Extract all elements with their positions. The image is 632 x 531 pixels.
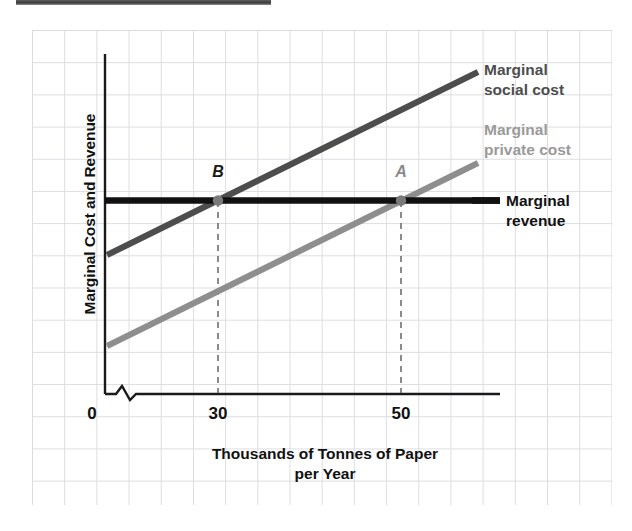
legend-marginal-private-cost: Marginal private cost xyxy=(484,120,571,160)
point-marker-a xyxy=(396,195,406,205)
marginal-social-cost-line xyxy=(107,72,478,255)
legend-marginal-social-cost: Marginal social cost xyxy=(484,60,564,100)
legend-marginal-private-cost-line-2: private cost xyxy=(484,140,571,160)
y-axis-title: Marginal Cost and Revenue xyxy=(81,64,99,364)
point-marker-b xyxy=(213,195,223,205)
legend-marginal-private-cost-line-1: Marginal xyxy=(484,120,571,140)
x-tick-label-50: 50 xyxy=(378,404,424,424)
x-axis-title: Thousands of Tonnes of Paper per Year xyxy=(150,444,500,484)
x-axis-title-line-1: Thousands of Tonnes of Paper xyxy=(150,444,500,464)
legend-marginal-revenue-line-1: Marginal xyxy=(506,191,570,211)
legend-marginal-social-cost-line-2: social cost xyxy=(484,80,564,100)
x-tick-label-30: 30 xyxy=(195,404,241,424)
legend-marginal-social-cost-line-1: Marginal xyxy=(484,60,564,80)
legend-marginal-revenue: Marginal revenue xyxy=(506,191,570,231)
legend-marginal-revenue-line-2: revenue xyxy=(506,211,570,231)
origin-tick-label: 0 xyxy=(75,404,109,424)
figure-canvas: Marginal Cost and Revenue Thousands of T… xyxy=(0,0,632,531)
x-axis-line xyxy=(105,386,500,400)
x-axis-title-line-2: per Year xyxy=(150,464,500,484)
marginal-private-cost-line xyxy=(107,163,478,346)
point-label-a: A xyxy=(383,163,419,181)
point-label-b: B xyxy=(200,163,236,181)
